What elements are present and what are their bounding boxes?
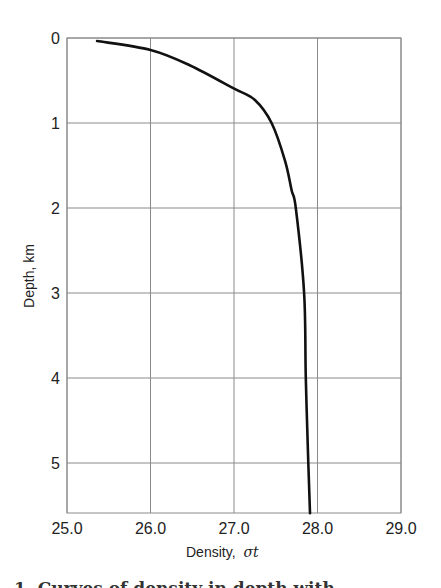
y-tick-label: 5: [51, 455, 60, 472]
x-axis-ticks: 25.026.027.028.029.0: [51, 520, 416, 537]
density-curve: [97, 41, 310, 513]
y-tick-label: 3: [51, 285, 60, 302]
grid-lines: [67, 38, 401, 513]
x-tick-label: 25.0: [51, 520, 82, 537]
y-tick-label: 4: [51, 370, 60, 387]
caption-text: 1. Curves of density in depth with: [0, 578, 441, 588]
y-axis-ticks: 012345: [51, 30, 60, 472]
x-tick-label: 27.0: [218, 520, 249, 537]
x-axis-label: Density,σt: [186, 544, 259, 560]
y-axis-label: Depth, km: [21, 244, 37, 308]
y-tick-label: 1: [51, 115, 60, 132]
x-tick-label: 29.0: [385, 520, 416, 537]
y-tick-label: 2: [51, 200, 60, 217]
x-tick-label: 26.0: [135, 520, 166, 537]
y-tick-label: 0: [51, 30, 60, 47]
caption-fragment: 1. Curves of density in depth with: [0, 578, 441, 588]
density-depth-chart: 25.026.027.028.029.0 012345 Density,σt D…: [0, 0, 441, 588]
x-tick-label: 28.0: [302, 520, 333, 537]
